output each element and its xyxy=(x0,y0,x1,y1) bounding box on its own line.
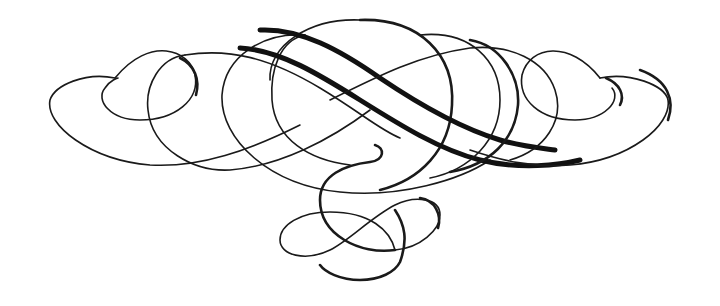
flourish-canvas xyxy=(0,0,720,306)
diagonal-swashes xyxy=(240,30,580,166)
calligraphic-flourish xyxy=(0,0,720,306)
right-loop-2 xyxy=(330,34,558,178)
left-loop-3 xyxy=(222,35,490,193)
lower-interlace xyxy=(280,145,440,280)
left-spiral xyxy=(50,51,300,166)
